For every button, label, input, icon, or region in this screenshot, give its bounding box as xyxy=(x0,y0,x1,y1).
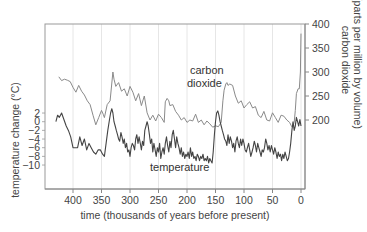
y-right-tick-label: 250 xyxy=(312,90,330,102)
x-tick-label: 300 xyxy=(121,194,139,206)
x-tick-label: 400 xyxy=(64,194,82,206)
temperature-series-label: temperature xyxy=(150,161,209,173)
y-left-axis-title: temperature change (°C) xyxy=(9,82,21,198)
y-right-axis-title-line2: (parts per million by volume) xyxy=(352,0,364,129)
y-axis-right: 400350300250200 xyxy=(305,18,330,190)
y-right-axis-title-line1: carbon dioxide xyxy=(340,26,352,94)
y-axis-left: 20−2−4−6−8−10 xyxy=(22,107,45,171)
x-tick-label: 100 xyxy=(235,194,253,206)
x-tick-label: 200 xyxy=(178,194,196,206)
temperature-series xyxy=(56,109,301,163)
carbon-dioxide-series xyxy=(59,34,301,128)
co2-series-label-line1: carbondioxide xyxy=(187,64,224,89)
x-tick-label: 50 xyxy=(267,194,279,206)
x-axis: 400350300250200150100500 xyxy=(45,189,305,206)
y-right-tick-label: 400 xyxy=(312,18,330,30)
y-right-tick-label: 200 xyxy=(312,114,330,126)
y-left-tick-label: −10 xyxy=(22,159,40,171)
y-right-tick-label: 300 xyxy=(312,66,330,78)
x-tick-label: 250 xyxy=(150,194,168,206)
y-right-tick-label: 350 xyxy=(312,42,330,54)
x-tick-label: 150 xyxy=(207,194,225,206)
x-tick-label: 350 xyxy=(93,194,111,206)
x-tick-label: 0 xyxy=(298,194,304,206)
chart: 400350300250200150100500 20−2−4−6−8−10 4… xyxy=(0,0,367,232)
x-axis-title: time (thousands of years before present) xyxy=(80,209,269,221)
